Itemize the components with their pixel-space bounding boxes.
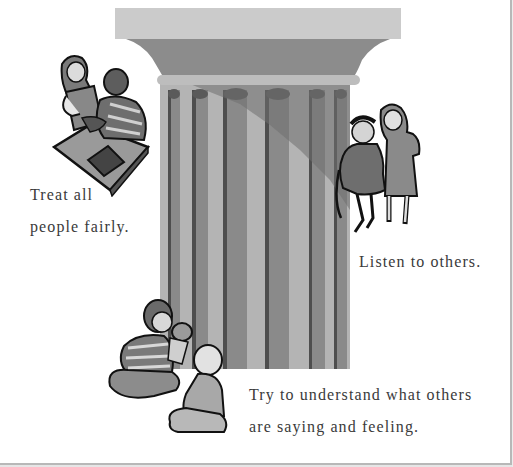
children-with-puppet-clipart: [106, 298, 232, 434]
children-with-book-clipart: [52, 52, 156, 197]
caption-listening: Listen to others.: [359, 253, 481, 271]
two-girls-clipart: [333, 100, 425, 238]
caption-empathy-line2: are saying and feeling.: [249, 418, 419, 436]
caption-empathy-line1: Try to understand what others: [249, 386, 472, 404]
caption-fairness-line2: people fairly.: [30, 218, 130, 236]
caption-fairness-line1: Treat all: [30, 186, 93, 204]
